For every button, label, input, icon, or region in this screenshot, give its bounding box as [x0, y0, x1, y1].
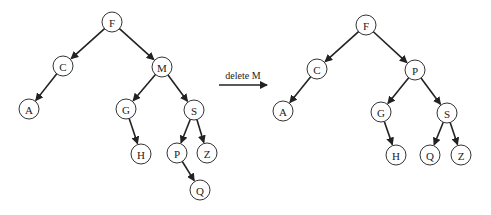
node-label: Z: [204, 148, 211, 160]
node-M: M: [152, 57, 172, 77]
node-label: C: [313, 64, 320, 76]
node-label: G: [377, 107, 385, 119]
node-label: H: [392, 150, 400, 162]
node-F: F: [102, 12, 122, 32]
node-Z: Z: [197, 143, 217, 163]
edge-C-A: [36, 74, 57, 101]
node-P: P: [167, 143, 187, 163]
node-label: M: [157, 62, 167, 74]
node-Q: Q: [190, 180, 210, 200]
edge-S-P: [181, 119, 190, 142]
node-P: P: [405, 60, 425, 80]
node-label: S: [444, 108, 450, 120]
node-label: C: [59, 61, 66, 73]
edge-S-Q: [434, 122, 443, 145]
edge-P-G: [388, 78, 409, 104]
node-label: A: [25, 104, 33, 116]
node-H: H: [386, 145, 406, 165]
node-A: A: [19, 99, 39, 119]
node-C: C: [53, 56, 73, 76]
edge-F-C: [325, 32, 358, 62]
node-A: A: [273, 101, 293, 121]
node-F: F: [356, 15, 376, 35]
edge-F-P: [373, 32, 407, 63]
edge-G-H: [129, 118, 137, 143]
node-Q: Q: [420, 145, 440, 165]
edge-F-M: [119, 29, 153, 60]
node-S: S: [184, 100, 204, 120]
edge-P-S: [421, 78, 440, 104]
node-H: H: [131, 144, 151, 164]
bst-deletion-diagram: FCMAGSHPZQ delete M FCPAGSHQZ: [0, 0, 491, 215]
node-G: G: [116, 99, 136, 119]
edge-F-C: [71, 29, 104, 59]
edge-G-H: [384, 121, 392, 144]
node-S: S: [437, 103, 457, 123]
node-label: F: [363, 20, 369, 32]
node-label: G: [122, 104, 130, 116]
node-G: G: [371, 102, 391, 122]
edge-S-Z: [197, 120, 204, 143]
node-label: H: [137, 149, 145, 161]
node-label: A: [279, 106, 287, 118]
node-Z: Z: [451, 145, 471, 165]
node-label: Q: [426, 150, 434, 162]
node-label: F: [109, 17, 115, 29]
node-label: Z: [458, 150, 465, 162]
node-label: P: [174, 148, 180, 160]
delete-operation-arrow: delete M: [219, 70, 267, 85]
node-label: P: [412, 65, 418, 77]
edge-S-Z: [450, 122, 457, 144]
edge-C-A: [290, 77, 311, 103]
edge-M-S: [168, 75, 187, 101]
node-label: Q: [196, 185, 204, 197]
edge-M-G: [133, 75, 155, 101]
edge-P-Q: [182, 161, 194, 180]
operation-label: delete M: [225, 70, 260, 81]
node-label: S: [191, 105, 197, 117]
tree-before-deletion: FCMAGSHPZQ: [19, 12, 217, 200]
tree-after-deletion: FCPAGSHQZ: [273, 15, 471, 165]
node-C: C: [307, 59, 327, 79]
